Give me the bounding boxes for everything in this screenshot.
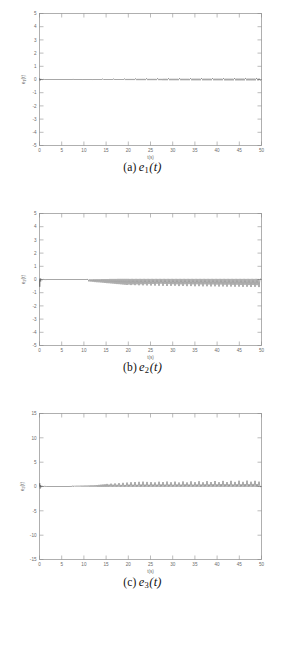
y-tick-label: 5 xyxy=(34,460,37,465)
y-tick-label: 2 xyxy=(34,251,37,256)
x-tick-label: 45 xyxy=(237,148,243,153)
plot-c-y-axis-title: e3(t) xyxy=(19,481,26,491)
y-tick-label: -5 xyxy=(32,509,37,514)
plot-a-trace xyxy=(40,78,262,80)
plot-c-svg: 15 10 5 0 -5 -10 -15 xyxy=(0,400,285,575)
y-tick-label: 3 xyxy=(34,238,37,243)
x-tick-label: 50 xyxy=(259,562,265,567)
y-tick-label: -5 xyxy=(32,143,37,148)
y-tick-label: -10 xyxy=(30,533,37,538)
x-tick-label: 5 xyxy=(60,148,63,153)
x-tick-label: 35 xyxy=(192,148,198,153)
plot-b-x-tick-labels: 0 5 10 15 20 25 30 35 40 45 50 xyxy=(38,348,264,353)
y-tick-label: -5 xyxy=(32,343,37,348)
x-tick-label: 0 xyxy=(38,562,41,567)
y-tick-label: 0 xyxy=(34,484,37,489)
plot-b-svg: 5 4 3 2 1 0 -1 -2 -3 -4 -5 xyxy=(0,200,285,360)
plot-c: 15 10 5 0 -5 -10 -15 xyxy=(0,400,285,575)
y-tick-label: 10 xyxy=(31,436,37,441)
y-tick-label: -4 xyxy=(32,130,37,135)
plot-a-y-axis-title: e1(t) xyxy=(20,74,27,84)
plot-c-x-tick-labels: 0 5 10 15 20 25 30 35 40 45 50 xyxy=(38,562,264,567)
y-tick-label: -3 xyxy=(32,117,37,122)
x-tick-label: 15 xyxy=(104,348,110,353)
plot-a-x-axis-title: t(s) xyxy=(147,155,154,160)
x-tick-label: 20 xyxy=(126,148,132,153)
x-tick-label: 40 xyxy=(215,348,221,353)
caption-a-label: (a) xyxy=(123,161,136,173)
caption-b-symbol: e xyxy=(137,360,145,374)
y-tick-label: 1 xyxy=(34,64,37,69)
y-tick-label: -2 xyxy=(32,104,37,109)
svg-text:e3(t): e3(t) xyxy=(19,481,26,491)
x-tick-label: 40 xyxy=(215,148,221,153)
x-tick-label: 20 xyxy=(126,348,132,353)
x-tick-label: 30 xyxy=(170,562,176,567)
y-tick-label: 3 xyxy=(34,38,37,43)
y-tick-label: 0 xyxy=(34,77,37,82)
y-tick-label: 0 xyxy=(34,277,37,282)
plot-b: 5 4 3 2 1 0 -1 -2 -3 -4 -5 xyxy=(0,200,285,360)
caption-c-arg: (t) xyxy=(149,575,161,589)
y-tick-label: -2 xyxy=(32,304,37,309)
plot-c-trace xyxy=(40,481,262,489)
panel-c: 15 10 5 0 -5 -10 -15 xyxy=(0,400,285,590)
y-tick-label: 1 xyxy=(34,264,37,269)
x-tick-label: 0 xyxy=(38,148,41,153)
x-tick-label: 45 xyxy=(237,348,243,353)
x-tick-label: 30 xyxy=(170,148,176,153)
y-axis-title-arg: (t) xyxy=(20,274,26,279)
x-tick-label: 25 xyxy=(148,348,154,353)
x-tick-label: 5 xyxy=(60,348,63,353)
caption-b-label: (b) xyxy=(123,361,137,373)
panel-a: 5 4 3 2 1 0 -1 -2 -3 -4 -5 xyxy=(0,0,285,175)
y-tick-label: -15 xyxy=(30,557,37,562)
y-tick-label: -1 xyxy=(32,90,37,95)
y-tick-label: -1 xyxy=(32,290,37,295)
x-tick-label: 50 xyxy=(259,148,265,153)
y-axis-title-arg: (t) xyxy=(20,74,26,79)
x-tick-label: 30 xyxy=(170,348,176,353)
x-tick-label: 15 xyxy=(104,148,110,153)
svg-text:e2(t): e2(t) xyxy=(20,274,27,284)
x-tick-label: 5 xyxy=(60,562,63,567)
x-tick-label: 25 xyxy=(148,562,154,567)
y-tick-label: -4 xyxy=(32,330,37,335)
plot-a-y-tick-labels: 5 4 3 2 1 0 -1 -2 -3 -4 -5 xyxy=(32,11,37,148)
x-tick-label: 50 xyxy=(259,348,265,353)
caption-b: (b)e2(t) xyxy=(0,360,285,375)
x-tick-label: 10 xyxy=(81,562,87,567)
y-tick-label: 2 xyxy=(34,51,37,56)
plot-a-svg: 5 4 3 2 1 0 -1 -2 -3 -4 -5 xyxy=(0,0,285,160)
y-tick-label: 5 xyxy=(34,11,37,16)
x-tick-label: 35 xyxy=(192,348,198,353)
caption-b-arg: (t) xyxy=(150,360,162,374)
plot-c-x-axis-title: t(s) xyxy=(147,569,154,574)
plot-a: 5 4 3 2 1 0 -1 -2 -3 -4 -5 xyxy=(0,0,285,160)
x-tick-label: 20 xyxy=(126,562,132,567)
caption-a-arg: (t) xyxy=(149,160,161,174)
svg-text:e1(t): e1(t) xyxy=(20,74,27,84)
panel-b: 5 4 3 2 1 0 -1 -2 -3 -4 -5 xyxy=(0,200,285,375)
y-tick-label: 15 xyxy=(31,411,37,416)
x-tick-label: 40 xyxy=(215,562,221,567)
x-tick-label: 15 xyxy=(104,562,110,567)
x-tick-label: 0 xyxy=(38,348,41,353)
y-tick-label: 5 xyxy=(34,211,37,216)
plot-b-y-tick-labels: 5 4 3 2 1 0 -1 -2 -3 -4 -5 xyxy=(32,211,37,348)
x-tick-label: 10 xyxy=(81,148,87,153)
figure-page: 5 4 3 2 1 0 -1 -2 -3 -4 -5 xyxy=(0,0,285,648)
plot-c-y-tick-labels: 15 10 5 0 -5 -10 -15 xyxy=(30,411,37,562)
y-axis-title-arg: (t) xyxy=(19,481,25,486)
plot-a-x-tick-labels: 0 5 10 15 20 25 30 35 40 45 50 xyxy=(38,148,264,153)
caption-c: (c)e3(t) xyxy=(0,575,285,590)
plot-b-trace xyxy=(40,278,262,287)
plot-b-x-axis-title: t(s) xyxy=(147,355,154,360)
y-tick-label: -3 xyxy=(32,317,37,322)
y-tick-label: 4 xyxy=(34,24,37,29)
plot-b-y-axis-title: e2(t) xyxy=(20,274,27,284)
x-tick-label: 45 xyxy=(237,562,243,567)
x-tick-label: 10 xyxy=(81,348,87,353)
caption-a: (a)e1(t) xyxy=(0,160,285,175)
y-tick-label: 4 xyxy=(34,224,37,229)
